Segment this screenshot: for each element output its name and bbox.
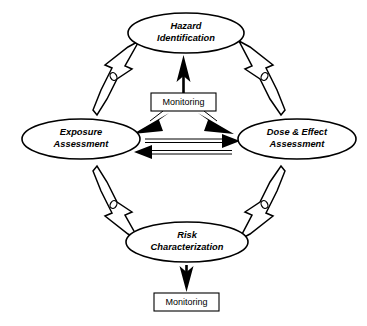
dose-effect-assessment-label-line1: Dose & Effect (267, 127, 328, 137)
monitoring-bottom-label: Monitoring (165, 297, 207, 307)
node-dose-effect-assessment[interactable]: Dose & Effect Assessment (238, 119, 356, 159)
node-hazard-identification[interactable]: Hazard Identification (128, 13, 244, 53)
hazard-identification-label-line2: Identification (157, 33, 215, 43)
connector-hazard-to-dose-effect (239, 41, 285, 115)
connector-dose-effect-to-exposure (134, 145, 232, 159)
risk-characterization-label-line1: Risk (177, 230, 197, 240)
connector-risk-to-monitoring (180, 265, 194, 292)
box-monitoring-bottom[interactable]: Monitoring (154, 293, 219, 311)
connector-exposure-to-dose-effect (145, 134, 240, 148)
node-exposure-assessment[interactable]: Exposure Assessment (22, 119, 140, 159)
risk-assessment-diagram: Hazard Identification Exposure Assessmen… (0, 0, 367, 326)
monitoring-center-label: Monitoring (162, 97, 204, 107)
dose-effect-assessment-label-line2: Assessment (269, 139, 326, 149)
connector-dose-effect-to-risk (239, 166, 285, 240)
diagram-canvas: Hazard Identification Exposure Assessmen… (0, 0, 367, 326)
connector-monitoring-to-hazard (177, 55, 191, 93)
exposure-assessment-label-line2: Assessment (53, 139, 110, 149)
connector-monitoring-to-dose-effect (198, 111, 234, 134)
exposure-assessment-label-line1: Exposure (60, 127, 102, 137)
connector-exposure-to-risk (93, 166, 139, 240)
connector-exposure-to-hazard (93, 41, 139, 115)
box-monitoring-center[interactable]: Monitoring (151, 93, 216, 111)
risk-characterization-label-line2: Characterization (151, 242, 224, 252)
hazard-identification-label-line1: Hazard (170, 21, 201, 31)
connector-monitoring-to-exposure (133, 111, 169, 134)
node-risk-characterization[interactable]: Risk Characterization (126, 222, 248, 262)
